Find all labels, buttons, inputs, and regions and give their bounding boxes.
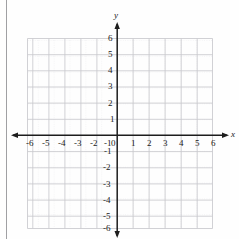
x-tick-label-5: 5 (195, 139, 200, 148)
x-tick-label-1: 1 (131, 139, 136, 148)
x-tick-label-neg5: -5 (42, 139, 50, 148)
coordinate-grid-figure: x y -6 -5 -4 -3 -2 -1 0 1 2 3 4 5 6 6 5 … (0, 0, 239, 239)
x-tick-label-3: 3 (163, 139, 168, 148)
x-tick-label-4: 4 (179, 139, 184, 148)
y-tick-label-neg4: -4 (103, 196, 111, 205)
x-axis-name-label: x (231, 130, 235, 139)
y-axis-name-label: y (114, 11, 118, 20)
y-axis-down-arrow (115, 231, 120, 238)
y-tick-label-neg2: -2 (103, 163, 111, 172)
x-tick-label-neg4: -4 (58, 139, 66, 148)
y-tick-label-5: 5 (108, 50, 113, 59)
x-tick-label-neg3: -3 (74, 139, 82, 148)
y-tick-label-neg6: -6 (103, 224, 111, 233)
x-tick-label-6: 6 (211, 139, 216, 148)
y-tick-label-6: 6 (108, 34, 113, 43)
y-tick-label-1: 1 (110, 115, 115, 124)
x-tick-label-neg2: -2 (90, 139, 98, 148)
y-tick-label-3: 3 (108, 82, 113, 91)
x-axis-right-arrow (222, 133, 229, 138)
x-axis-left-arrow (11, 133, 18, 138)
y-tick-label-2: 2 (108, 99, 113, 108)
coordinate-plane (0, 0, 239, 239)
x-tick-label-neg6: -6 (26, 139, 34, 148)
y-tick-label-neg1: -1 (104, 147, 112, 156)
y-tick-label-4: 4 (108, 66, 113, 75)
origin-label: 0 (111, 139, 116, 148)
y-tick-label-neg3: -3 (103, 180, 111, 189)
y-axis-up-arrow (115, 22, 120, 29)
x-tick-label-2: 2 (147, 139, 152, 148)
y-tick-label-neg5: -5 (103, 212, 111, 221)
